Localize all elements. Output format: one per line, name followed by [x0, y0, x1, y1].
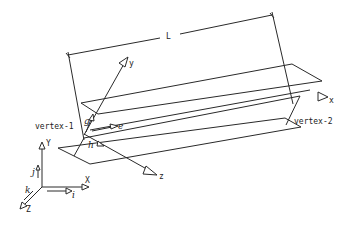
global-z-label: Z	[26, 205, 31, 214]
x-arrowhead-icon	[318, 92, 328, 101]
global-x-label: X	[85, 176, 90, 185]
vertex-2-label: vertex-2	[294, 117, 333, 126]
right-extension-line	[272, 12, 293, 104]
z-arrowhead-icon	[143, 166, 157, 175]
length-dimension: L	[66, 13, 274, 58]
h-label: h	[88, 140, 94, 150]
k-label: k	[25, 185, 30, 195]
vertex-1-label: vertex-1	[35, 122, 74, 131]
unit-vector-e: e	[92, 121, 123, 131]
g-label: g	[84, 116, 90, 126]
e-label: e	[118, 121, 123, 131]
local-x-axis: x	[318, 92, 334, 105]
global-y-label: Y	[46, 139, 51, 148]
local-x-label: x	[329, 96, 334, 105]
y-arrowhead-icon	[119, 57, 128, 67]
global-coordinate-system: Y X Z j i k	[20, 139, 90, 214]
j-label: j	[30, 167, 35, 177]
global-y-arrowhead-icon	[39, 142, 45, 149]
length-label: L	[166, 32, 171, 41]
j-arrowhead-icon	[36, 165, 40, 170]
i-label: i	[72, 190, 75, 200]
beam-element-diagram: L y x z g	[0, 0, 356, 225]
local-y-label: y	[129, 59, 134, 68]
unit-vector-h: h	[88, 140, 104, 150]
lower-flange	[58, 118, 301, 164]
local-z-axis: z	[84, 134, 164, 181]
local-z-label: z	[159, 172, 164, 181]
